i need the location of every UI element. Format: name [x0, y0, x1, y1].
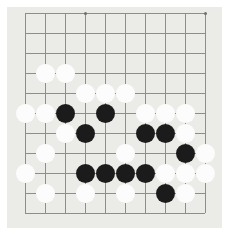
go-stone-white[interactable]	[56, 124, 75, 143]
go-stone-black[interactable]	[96, 104, 115, 123]
grid-line-horizontal	[25, 53, 205, 54]
go-stone-white[interactable]	[76, 184, 95, 203]
go-stone-white[interactable]	[116, 84, 135, 103]
star-point	[204, 12, 207, 15]
star-point	[84, 12, 87, 15]
go-stone-white[interactable]	[16, 164, 35, 183]
grid-line-horizontal	[25, 213, 205, 214]
go-stone-white[interactable]	[176, 184, 195, 203]
go-stone-white[interactable]	[36, 64, 55, 83]
go-stone-white[interactable]	[156, 104, 175, 123]
go-stone-black[interactable]	[176, 144, 195, 163]
go-stone-white[interactable]	[196, 144, 215, 163]
go-stone-black[interactable]	[76, 164, 95, 183]
go-stone-black[interactable]	[156, 124, 175, 143]
go-stone-black[interactable]	[156, 184, 175, 203]
grid-line-horizontal	[25, 13, 205, 14]
go-stone-white[interactable]	[156, 164, 175, 183]
go-stone-white[interactable]	[76, 84, 95, 103]
go-stone-white[interactable]	[96, 84, 115, 103]
go-stone-white[interactable]	[196, 164, 215, 183]
go-stone-black[interactable]	[136, 124, 155, 143]
go-stone-black[interactable]	[96, 164, 115, 183]
go-stone-white[interactable]	[116, 184, 135, 203]
go-stone-black[interactable]	[76, 124, 95, 143]
go-stone-black[interactable]	[136, 164, 155, 183]
go-stone-white[interactable]	[16, 104, 35, 123]
go-stone-white[interactable]	[36, 104, 55, 123]
go-stone-white[interactable]	[36, 184, 55, 203]
go-stone-white[interactable]	[176, 104, 195, 123]
go-stone-black[interactable]	[56, 104, 75, 123]
go-stone-white[interactable]	[116, 144, 135, 163]
go-stone-black[interactable]	[116, 164, 135, 183]
go-stone-white[interactable]	[36, 144, 55, 163]
go-stone-white[interactable]	[176, 124, 195, 143]
go-stone-white[interactable]	[136, 104, 155, 123]
go-board-panel[interactable]	[7, 7, 222, 228]
go-board-surface[interactable]	[7, 7, 222, 228]
screenshot-root	[0, 0, 230, 240]
grid-line-vertical	[205, 13, 206, 213]
grid-line-horizontal	[25, 33, 205, 34]
go-stone-white[interactable]	[176, 164, 195, 183]
go-stone-white[interactable]	[56, 64, 75, 83]
